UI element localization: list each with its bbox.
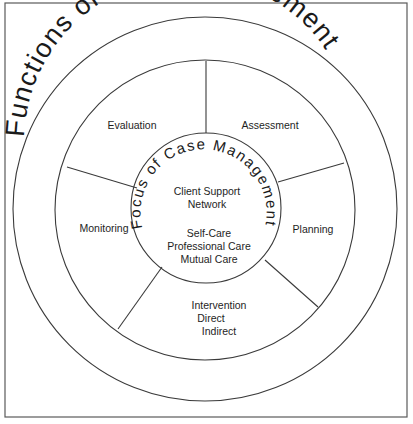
outer-title-text: Functions of Case Management [0, 0, 346, 138]
center-self-care: Self-Care [187, 227, 232, 239]
intervention-title: Intervention [192, 299, 247, 311]
segment-intervention: Intervention Direct Indirect [192, 299, 247, 337]
segment-assessment: Assessment [241, 119, 298, 131]
divider-right [278, 163, 344, 182]
intervention-indirect: Indirect [202, 325, 237, 337]
segment-planning: Planning [293, 223, 334, 235]
inner-title-text: Focus of Case Management [127, 135, 281, 230]
outer-title: Functions of Case Management [0, 0, 346, 138]
center-mutual-care: Mutual Care [180, 253, 237, 265]
divider-lower-right [265, 260, 318, 307]
segment-evaluation: Evaluation [107, 119, 156, 131]
center-group-support: Client Support Network [174, 185, 241, 210]
divider-left [67, 167, 137, 188]
center-professional-care: Professional Care [167, 240, 251, 252]
segment-monitoring: Monitoring [79, 222, 128, 234]
center-group-care: Self-Care Professional Care Mutual Care [167, 227, 251, 265]
inner-title: Focus of Case Management [127, 135, 281, 230]
diagram-canvas: Functions of Case Management Focus of Ca… [0, 0, 413, 424]
center-client-support: Client Support [174, 185, 241, 197]
intervention-direct: Direct [197, 312, 225, 324]
case-management-diagram: Functions of Case Management Focus of Ca… [0, 0, 413, 424]
divider-lower-left [118, 267, 162, 329]
center-network: Network [188, 198, 227, 210]
